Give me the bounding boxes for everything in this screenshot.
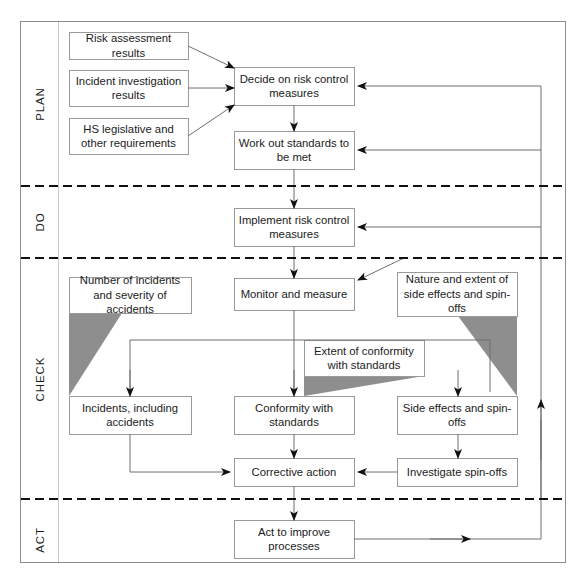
label-investigate-spin-offs[interactable]: Investigate spin-offs	[397, 458, 517, 486]
label-number-of-incidents[interactable]: Number of incidents and severity of acci…	[69, 277, 191, 313]
label-conformity-with-standards[interactable]: Conformity with standards	[234, 396, 354, 434]
label-nature-and-extent[interactable]: Nature and extent of side effects and sp…	[397, 272, 517, 316]
phase-label-do: DO	[28, 197, 52, 247]
phase-label-plan: PLAN	[28, 79, 52, 129]
label-corrective-action[interactable]: Corrective action	[234, 458, 354, 486]
label-incident-investigation[interactable]: Incident investigation results	[69, 70, 188, 106]
connector-hs-to-decide	[188, 105, 234, 136]
label-extent-of-conformity[interactable]: Extent of conformity with standards	[304, 340, 424, 376]
triangle-incidents-shade	[69, 313, 122, 396]
label-work-out-standards[interactable]: Work out standards to be met	[234, 131, 354, 169]
diagram-canvas: PLAN DO CHECK ACT Risk assessment result…	[0, 0, 584, 584]
phase-label-check: CHECK	[28, 353, 52, 405]
triangle-conformity-shade	[304, 376, 424, 396]
label-monitor-and-measure[interactable]: Monitor and measure	[234, 278, 354, 310]
phase-label-act: ACT	[28, 515, 52, 565]
label-incidents-including-accidents[interactable]: Incidents, including accidents	[69, 396, 191, 434]
label-risk-assessment-results[interactable]: Risk assessment results	[69, 32, 188, 59]
label-decide-risk-control[interactable]: Decide on risk control measures	[234, 67, 354, 105]
label-implement-risk-control[interactable]: Implement risk control measures	[234, 208, 354, 246]
label-side-effects-and-spin-offs[interactable]: Side effects and spin-offs	[397, 396, 517, 434]
label-hs-legislative[interactable]: HS legislative and other requirements	[69, 118, 188, 154]
label-act-to-improve[interactable]: Act to improve processes	[234, 520, 354, 558]
connector-incidents-to-corrective	[130, 434, 230, 472]
connector-risk-to-decide	[188, 46, 234, 68]
triangle-side-effects-shade	[458, 316, 517, 396]
